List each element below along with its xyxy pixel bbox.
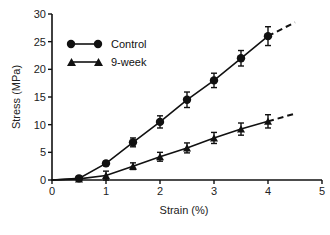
y-tick-label: 15: [34, 91, 46, 103]
data-series: [52, 22, 295, 182]
legend-label-control: Control: [111, 38, 146, 50]
y-tick-label: 5: [40, 146, 46, 158]
x-tick-label: 5: [319, 185, 325, 197]
x-tick-label: 4: [265, 185, 271, 197]
series-control: [52, 22, 295, 182]
extrapolation-line: [268, 114, 295, 122]
circle-marker-icon: [102, 159, 110, 167]
circle-marker-icon: [129, 138, 137, 146]
y-tick-label: 20: [34, 63, 46, 75]
x-tick-label: 3: [211, 185, 217, 197]
x-axis-title: Strain (%): [160, 204, 209, 216]
x-tick-label: 1: [103, 185, 109, 197]
circle-marker-icon: [183, 96, 191, 104]
series-line: [52, 121, 268, 180]
y-tick-label: 0: [40, 174, 46, 186]
circle-marker-icon: [67, 40, 75, 48]
legend-item-9-week: 9-week: [67, 56, 147, 68]
x-tick-label: 0: [49, 185, 55, 197]
circle-marker-icon: [94, 40, 102, 48]
x-tick-label: 2: [157, 185, 163, 197]
circle-marker-icon: [210, 76, 218, 84]
series-9-week: [52, 114, 295, 183]
legend-item-control: Control: [67, 38, 147, 50]
legend: Control 9-week: [67, 38, 147, 68]
circle-marker-icon: [156, 118, 164, 126]
axes: 051015202530012345: [34, 8, 325, 197]
y-tick-label: 10: [34, 119, 46, 131]
triangle-marker-icon: [183, 144, 191, 151]
y-tick-label: 25: [34, 36, 46, 48]
y-tick-label: 30: [34, 8, 46, 20]
stress-strain-chart: 051015202530012345 Control 9-week Strain…: [0, 0, 330, 235]
legend-label-9-week: 9-week: [111, 56, 147, 68]
extrapolation-line: [268, 22, 295, 36]
circle-marker-icon: [237, 54, 245, 62]
circle-marker-icon: [264, 32, 272, 40]
y-axis-title: Stress (MPa): [10, 65, 22, 129]
